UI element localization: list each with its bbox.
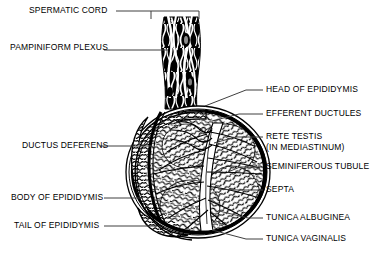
anatomy-figure: SPERMATIC CORD PAMPINIFORM PLEXUS DUCTUS… xyxy=(0,0,385,254)
label-rete-testis-sub: (IN MEDIASTINUM) xyxy=(266,143,344,152)
spermatic-cord-illustration xyxy=(162,16,201,110)
label-tunica-albuginea: TUNICA ALBUGINEA xyxy=(266,213,350,222)
label-tail-of-epididymis: TAIL OF EPIDIDYMIS xyxy=(14,221,99,230)
label-seminiferous-tubule: SEMINIFEROUS TUBULE xyxy=(266,162,369,171)
label-pampiniform-plexus: PAMPINIFORM PLEXUS xyxy=(10,43,108,52)
head-of-epididymis-leader xyxy=(205,90,263,106)
label-ductus-deferens: DUCTUS DEFERENS xyxy=(22,141,108,150)
label-efferent-ductules: EFFERENT DUCTULES xyxy=(266,109,361,118)
label-septa: SEPTA xyxy=(266,185,294,194)
label-spermatic-cord: SPERMATIC CORD xyxy=(29,6,107,15)
label-head-of-epididymis: HEAD OF EPIDIDYMIS xyxy=(266,85,358,94)
label-rete-testis: RETE TESTIS xyxy=(266,132,322,141)
label-body-of-epididymis: BODY OF EPIDIDYMIS xyxy=(11,193,103,202)
label-tunica-vaginalis: TUNICA VAGINALIS xyxy=(266,234,346,243)
